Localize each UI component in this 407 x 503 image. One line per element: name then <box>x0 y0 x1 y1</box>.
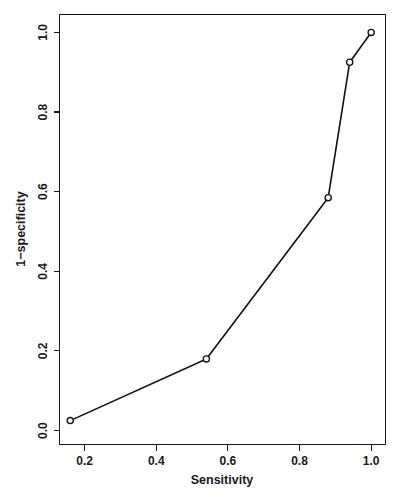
y-tick-label-0.0: 0.0 <box>36 422 50 439</box>
data-point-2 <box>203 356 209 362</box>
x-tick-label-0.6: 0.6 <box>220 454 237 468</box>
x-axis-title: Sensitivity <box>191 473 254 487</box>
data-series-markers <box>67 29 374 423</box>
x-tick-label-1.0: 1.0 <box>363 454 380 468</box>
x-tick-label-0.2: 0.2 <box>76 454 93 468</box>
data-point-3 <box>325 195 331 201</box>
x-axis-tick-labels: 0.20.40.60.81.0 <box>76 454 380 468</box>
y-axis-tick-labels: 0.00.20.40.60.81.0 <box>36 24 50 439</box>
data-point-5 <box>368 29 374 35</box>
y-axis-title: 1−specificity <box>14 191 28 266</box>
y-tick-label-0.8: 0.8 <box>36 103 50 120</box>
y-tick-label-1.0: 1.0 <box>36 24 50 41</box>
y-tick-label-0.4: 0.4 <box>36 263 50 280</box>
chart-canvas: 0.20.40.60.81.0 0.00.20.40.60.81.0 Sensi… <box>0 0 407 503</box>
roc-chart-figure: 0.20.40.60.81.0 0.00.20.40.60.81.0 Sensi… <box>0 0 407 503</box>
x-tick-label-0.4: 0.4 <box>148 454 165 468</box>
y-tick-label-0.6: 0.6 <box>36 183 50 200</box>
x-axis-ticks <box>85 445 372 451</box>
y-tick-label-0.2: 0.2 <box>36 342 50 359</box>
data-point-4 <box>347 59 353 65</box>
y-axis-ticks <box>54 32 60 430</box>
data-series-line <box>70 32 371 420</box>
data-point-1 <box>67 418 73 424</box>
plot-frame <box>60 15 386 445</box>
x-tick-label-0.8: 0.8 <box>291 454 308 468</box>
